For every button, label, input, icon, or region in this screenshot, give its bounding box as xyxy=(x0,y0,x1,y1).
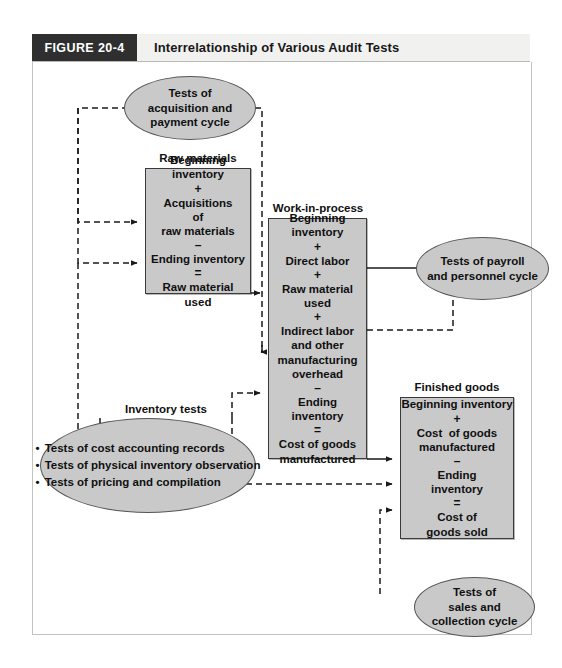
raw-materials-line: used xyxy=(185,295,212,309)
oval-acquisition-line-2: acquisition and xyxy=(148,102,232,114)
oval-sales-line-3: collection cycle xyxy=(432,615,518,627)
wip-operator: – xyxy=(314,381,321,395)
raw-materials-line: Raw material xyxy=(163,280,234,294)
finished-goods-line: Ending xyxy=(438,468,477,482)
box-raw-materials: Beginning inventory + Acquisitions of ra… xyxy=(145,168,251,294)
wip-line: Raw material xyxy=(282,282,353,296)
wip-operator: = xyxy=(314,423,321,437)
finished-goods-line: inventory xyxy=(431,482,483,496)
wire-acquisition-left-rail-lower xyxy=(78,108,137,263)
finished-goods-operator: – xyxy=(454,454,461,468)
finished-goods-operator: + xyxy=(453,412,460,426)
box-finished-goods: Beginning inventory + Cost of goods manu… xyxy=(400,397,514,539)
inventory-test-item: Tests of physical inventory observation xyxy=(36,457,261,474)
finished-goods-line: Cost of xyxy=(437,510,477,524)
inventory-test-item: Tests of cost accounting records xyxy=(36,440,261,457)
raw-materials-operator: + xyxy=(194,182,201,196)
oval-acquisition-line-1: Tests of xyxy=(168,87,211,99)
oval-inventory-tests: Tests of cost accounting records Tests o… xyxy=(40,418,256,513)
wip-line: inventory xyxy=(292,409,344,423)
wip-operator: + xyxy=(314,310,321,324)
finished-goods-line: Cost of goods xyxy=(417,426,498,440)
finished-goods-line: manufactured xyxy=(419,440,495,454)
raw-materials-line: Acquisitions xyxy=(163,196,232,210)
wip-line: and other xyxy=(291,338,343,352)
raw-materials-line: raw materials xyxy=(161,224,235,238)
finished-goods-line: Beginning inventory xyxy=(401,397,512,411)
figure-page: FIGURE 20-4 Interrelationship of Various… xyxy=(0,0,562,668)
finished-goods-line: goods sold xyxy=(426,525,487,539)
caption-inventory-tests: Inventory tests xyxy=(96,403,236,415)
caption-finished-goods: Finished goods xyxy=(400,381,514,393)
oval-payroll-line-1: Tests of payroll xyxy=(440,255,524,267)
wip-line: Indirect labor xyxy=(281,324,354,338)
wip-line: used xyxy=(304,296,331,310)
oval-tests-of-acquisition-and-payment-cycle: Tests of acquisition and payment cycle xyxy=(124,76,256,140)
raw-materials-line: inventory xyxy=(172,167,224,181)
wip-line: manufacturing xyxy=(278,353,358,367)
oval-acquisition-line-3: payment cycle xyxy=(150,116,229,128)
wip-operator: + xyxy=(314,268,321,282)
oval-tests-of-sales-and-collection-cycle: Tests of sales and collection cycle xyxy=(414,577,535,637)
raw-materials-line: of xyxy=(193,210,204,224)
wip-line: Beginning xyxy=(289,211,345,225)
wire-payroll-dashed-to-wip xyxy=(360,300,453,330)
raw-materials-line: Beginning xyxy=(170,153,226,167)
wip-line: overhead xyxy=(292,367,343,381)
inventory-test-item: Tests of pricing and compilation xyxy=(36,474,261,491)
oval-sales-line-2: sales and xyxy=(448,601,500,613)
raw-materials-operator: – xyxy=(195,238,202,252)
wire-acquisition-right-rail xyxy=(255,108,262,352)
wire-sales-to-finished-goods xyxy=(380,510,392,594)
wip-line: Cost of goods xyxy=(279,437,356,451)
wire-inventory-tests-to-wip xyxy=(232,393,260,418)
raw-materials-operator: = xyxy=(194,266,201,280)
oval-payroll-line-2: and personnel cycle xyxy=(427,270,538,282)
wip-line: inventory xyxy=(292,225,344,239)
wire-acq-right-into-wip xyxy=(261,350,262,352)
wip-line: manufactured xyxy=(279,452,355,466)
raw-materials-line: Ending inventory xyxy=(151,252,245,266)
box-work-in-process: Beginning inventory + Direct labor + Raw… xyxy=(268,218,367,459)
wip-line: Ending xyxy=(298,395,337,409)
oval-tests-of-payroll-and-personnel-cycle: Tests of payroll and personnel cycle xyxy=(416,237,549,300)
oval-sales-line-1: Tests of xyxy=(453,586,496,598)
finished-goods-operator: = xyxy=(453,496,460,510)
wip-line: Direct labor xyxy=(286,254,350,268)
wip-operator: + xyxy=(314,240,321,254)
